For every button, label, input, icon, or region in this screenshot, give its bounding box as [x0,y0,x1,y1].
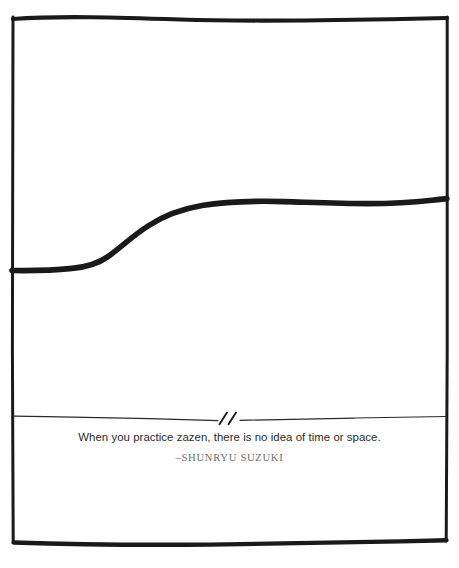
axis-break-slashes [220,413,237,425]
frame-left-border [12,17,13,541]
figure-page: When you practice zazen, there is no ide… [0,0,459,568]
quote-attribution: –SHUNRYU SUZUKI [16,451,443,465]
quote-text: When you practice zazen, there is no ide… [16,430,443,445]
frame-top-border [13,17,447,21]
frame-right-border [446,17,447,541]
baseline-axis [13,413,446,425]
frame-bottom-border [14,540,447,545]
hand-drawn-chart-frame [12,17,447,545]
baseline-right-segment [240,417,446,421]
quote-block: When you practice zazen, there is no ide… [16,430,443,465]
baseline-left-segment [13,416,218,420]
sigmoid-curve [12,199,447,271]
axis-break-slash-second [229,413,237,425]
axis-break-slash-first [220,413,228,425]
chart-illustration [0,0,459,568]
